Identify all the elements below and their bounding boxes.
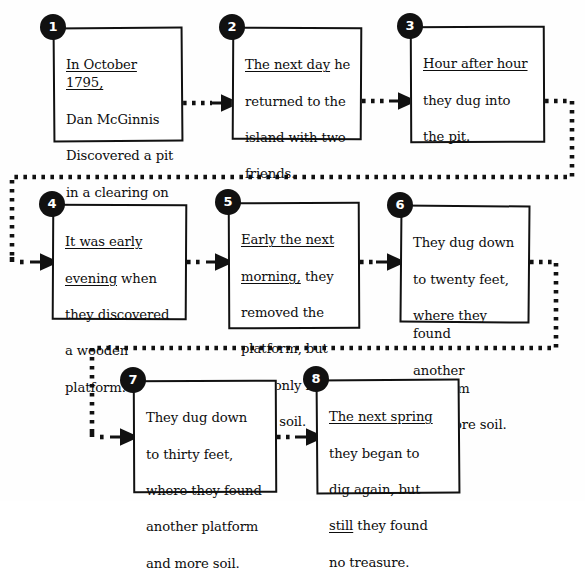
flowchart-node-6[interactable]: They dug down to twenty feet, where they… <box>400 205 530 323</box>
node-6-line-3: where they found <box>413 308 487 341</box>
node-7-text: They dug down to thirty feet, where they… <box>146 391 271 572</box>
node-7-number-badge: 7 <box>120 367 146 393</box>
flowchart-node-8[interactable]: The next spring they began to dig again,… <box>316 379 460 494</box>
node-1-line-4: in a clearing on <box>66 185 169 200</box>
node-2-line-3: island with two <box>245 130 346 145</box>
node-2-number-badge: 2 <box>219 14 245 40</box>
flowchart-node-3[interactable]: Hour after hour they dug into the pit. 3 <box>410 26 545 143</box>
node-4-line-3: they discovered <box>65 307 169 322</box>
node-3-text: Hour after hour they dug into the pit. <box>423 37 539 146</box>
flowchart-node-1[interactable]: In October 1795, Dan McGinnis Discovered… <box>53 27 183 142</box>
node-1-line-1: In October 1795, <box>66 57 137 90</box>
node-2-line-4: friends. <box>245 166 295 181</box>
flowchart-node-7[interactable]: They dug down to thirty feet, where they… <box>133 380 277 493</box>
node-7-line-3: where they found <box>146 483 262 498</box>
node-1-line-2: Dan McGinnis <box>66 112 160 127</box>
node-8-line-4: still <box>329 518 353 533</box>
node-8-line-3: dig again, but <box>329 482 420 497</box>
node-5-line-1: Early the next <box>241 232 334 247</box>
node-5-line-2-tail: they <box>301 269 334 284</box>
node-4-number-badge: 4 <box>39 191 65 217</box>
node-6-number-badge: 6 <box>387 192 413 218</box>
flowchart-node-5[interactable]: Early the next morning, they removed the… <box>228 202 360 329</box>
flowchart-node-2[interactable]: The next day he returned to the island w… <box>232 27 362 140</box>
node-5-number-badge: 5 <box>215 189 241 215</box>
node-7-line-1: They dug down <box>146 410 247 425</box>
node-3-line-1: Hour after hour <box>423 56 528 71</box>
node-3-line-2: they dug into <box>423 93 510 108</box>
node-4-line-2-tail: when <box>117 271 157 286</box>
node-8-text: The next spring they began to dig again,… <box>329 390 454 572</box>
node-8-number-badge: 8 <box>303 366 329 392</box>
node-8-line-2: they began to <box>329 446 419 461</box>
node-7-line-5: and more soil. <box>146 556 240 571</box>
node-2-line-1-tail: he <box>330 57 350 72</box>
node-2-line-1: The next day <box>245 57 330 72</box>
node-2-text: The next day he returned to the island w… <box>245 38 356 184</box>
node-4-line-2: evening <box>65 271 117 286</box>
node-3-line-3: the pit. <box>423 129 470 144</box>
node-5-line-2: morning, <box>241 269 301 284</box>
flowchart-node-4[interactable]: It was early evening when they discovere… <box>52 204 187 320</box>
node-8-line-4-tail: they found <box>353 518 428 533</box>
node-6-line-1: They dug down <box>413 235 514 250</box>
node-7-line-4: another platform <box>146 519 258 534</box>
node-6-line-2: to twenty feet, <box>413 272 509 287</box>
node-4-line-4: a wooden <box>65 343 128 358</box>
node-2-line-2: returned to the <box>245 94 346 109</box>
node-7-line-2: to thirty feet, <box>146 447 233 462</box>
node-8-line-5: no treasure. <box>329 555 409 570</box>
node-1-line-3: Discovered a pit <box>66 148 173 163</box>
node-1-number-badge: 1 <box>40 14 66 40</box>
node-5-line-4: platform, but <box>241 341 328 356</box>
node-4-line-5: platform. <box>65 380 126 395</box>
node-3-number-badge: 3 <box>397 13 423 39</box>
node-4-line-1: It was early <box>65 234 142 249</box>
node-8-line-1: The next spring <box>329 409 433 424</box>
node-5-line-3: removed the <box>241 305 324 320</box>
